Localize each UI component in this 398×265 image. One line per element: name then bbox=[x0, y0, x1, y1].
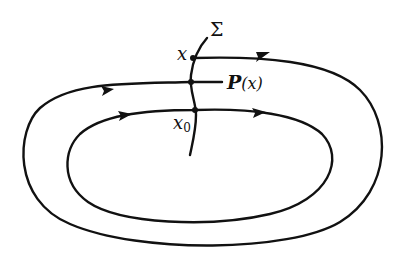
point-x-marker bbox=[190, 55, 196, 61]
fixed-point-label: x0 bbox=[173, 114, 191, 134]
fixed-point-sub: 0 bbox=[183, 121, 191, 135]
poincare-map-diagram: Σ x P(x) x0 bbox=[0, 0, 398, 265]
section-label: Σ bbox=[210, 20, 223, 39]
point-x-label: x bbox=[177, 45, 187, 63]
return-map-label: P(x) bbox=[227, 73, 263, 92]
point-x0-marker bbox=[192, 107, 198, 113]
return-map-name: P bbox=[227, 71, 241, 93]
return-map-arg: (x) bbox=[241, 74, 263, 93]
diagram-drawing bbox=[0, 0, 398, 265]
inner-trajectory bbox=[67, 110, 332, 223]
arrow-icon bbox=[101, 86, 114, 96]
point-px-marker bbox=[188, 79, 194, 85]
fixed-point-base: x bbox=[173, 112, 183, 133]
outer-trajectory bbox=[23, 58, 381, 246]
